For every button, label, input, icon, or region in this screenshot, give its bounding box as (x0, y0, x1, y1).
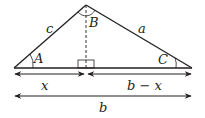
angle-arc-C (175, 58, 176, 68)
segment-label-x: x (41, 78, 49, 93)
angle-label-B: B (88, 15, 99, 30)
segment-label-b: b (99, 100, 107, 115)
triangle-diagram: c a A B C x b − x b (0, 0, 205, 118)
side-label-a: a (138, 21, 146, 36)
segment-label-b-minus-x: b − x (127, 78, 162, 93)
side-a (86, 5, 192, 68)
angle-label-C: C (158, 52, 168, 67)
side-label-c: c (46, 21, 54, 36)
angle-arc-A (30, 54, 33, 68)
side-c (14, 5, 86, 68)
angle-label-A: A (33, 51, 43, 66)
